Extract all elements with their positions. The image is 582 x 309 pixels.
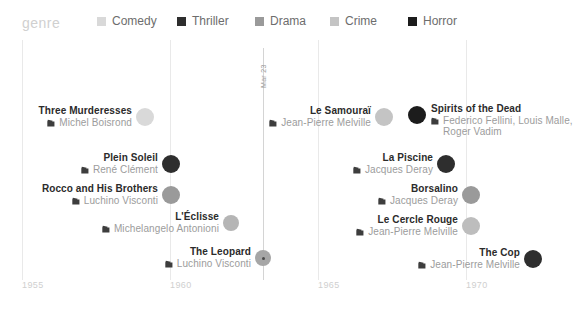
film-director: Michelangelo Antonioni <box>102 223 219 236</box>
legend-swatch-icon <box>330 17 339 26</box>
legend-label: Comedy <box>112 14 157 28</box>
director-name-line-1: Jean-Pierre Melville <box>281 117 371 128</box>
film-title: Plein Soleil <box>81 152 158 164</box>
film-title: Three Murderesses <box>39 105 132 117</box>
legend-item-thriller[interactable]: Thriller <box>177 14 229 28</box>
film-director: Jacques Deray <box>378 195 458 208</box>
film-director: René Clément <box>81 164 158 177</box>
film-clapper-icon <box>72 196 80 208</box>
director-name-line-2: Roger Vadim <box>443 126 573 138</box>
film-director: Luchino Visconti <box>42 195 158 208</box>
legend-label: Crime <box>345 14 377 28</box>
film-clapper-icon <box>269 118 277 130</box>
point-label: L'ÉclisseMichelangelo Antonioni <box>102 211 219 235</box>
film-director: Jacques Deray <box>353 164 433 177</box>
timeline-chart: genre ComedyThrillerDramaCrimeHorror Mar… <box>0 0 582 309</box>
point-label: La PiscineJacques Deray <box>353 152 433 176</box>
data-point[interactable] <box>375 108 393 126</box>
data-point[interactable] <box>223 215 239 231</box>
gridline-1965 <box>318 40 319 280</box>
point-label: Le Cercle RougeJean-Pierre Melville <box>356 214 458 238</box>
film-title: The Leopard <box>165 246 251 258</box>
director-name-line-1: René Clément <box>93 164 158 175</box>
director-name-line-1: Jean-Pierre Melville <box>368 226 458 237</box>
film-director: Jean-Pierre Melville <box>418 259 520 272</box>
film-clapper-icon <box>102 224 110 236</box>
data-point[interactable] <box>408 106 426 124</box>
tracker-date-label: Mar 23 <box>260 64 267 88</box>
legend-swatch-icon <box>97 17 106 26</box>
data-point[interactable] <box>136 108 154 126</box>
film-clapper-icon <box>165 259 173 271</box>
legend-swatch-icon <box>177 17 186 26</box>
film-title: Spirits of the Dead <box>431 103 573 115</box>
film-clapper-icon <box>353 165 361 177</box>
point-label: Three MurderessesMichel Boisrond <box>39 105 132 129</box>
director-name-line-1: Luchino Visconti <box>84 195 158 206</box>
legend-item-horror[interactable]: Horror <box>408 14 457 28</box>
director-name-line-1: Jean-Pierre Melville <box>430 259 520 270</box>
director-name-line-1: Luchino Visconti <box>177 258 251 269</box>
legend-swatch-icon <box>408 17 417 26</box>
point-label: Plein SoleilRené Clément <box>81 152 158 176</box>
data-point[interactable] <box>524 250 542 268</box>
film-title: L'Éclisse <box>102 211 219 223</box>
axis-tick-1970: 1970 <box>466 280 488 290</box>
data-point[interactable] <box>462 186 480 204</box>
film-director: Jean-Pierre Melville <box>356 226 458 239</box>
film-title: Le Cercle Rouge <box>356 214 458 226</box>
film-title: Le Samouraï <box>269 105 371 117</box>
legend-item-comedy[interactable]: Comedy <box>97 14 157 28</box>
director-name-line-1: Jacques Deray <box>365 164 433 175</box>
data-point[interactable] <box>162 155 180 173</box>
legend-label: Drama <box>270 14 306 28</box>
data-point[interactable] <box>437 155 455 173</box>
axis-tick-1955: 1955 <box>22 280 44 290</box>
director-name-line-1: Michelangelo Antonioni <box>114 223 219 234</box>
point-label: The CopJean-Pierre Melville <box>418 247 520 271</box>
axis-tick-1965: 1965 <box>318 280 340 290</box>
film-clapper-icon <box>81 165 89 177</box>
film-title: Borsalino <box>378 183 458 195</box>
film-director: Michel Boisrond <box>39 117 132 130</box>
legend-item-drama[interactable]: Drama <box>255 14 306 28</box>
film-title: La Piscine <box>353 152 433 164</box>
director-name-line-1: Michel Boisrond <box>59 117 132 128</box>
legend-label: Horror <box>423 14 457 28</box>
film-director: Federico Fellini, Louis Malle,Roger Vadi… <box>431 115 573 138</box>
point-label: Le SamouraïJean-Pierre Melville <box>269 105 371 129</box>
point-label: BorsalinoJacques Deray <box>378 183 458 207</box>
legend-item-crime[interactable]: Crime <box>330 14 377 28</box>
legend-title: genre <box>22 15 60 31</box>
selected-point-core <box>262 257 265 260</box>
data-point[interactable] <box>462 217 480 235</box>
point-label: Rocco and His BrothersLuchino Visconti <box>42 183 158 207</box>
director-name-line-1: Jacques Deray <box>390 195 458 206</box>
data-point[interactable] <box>162 186 180 204</box>
director-name-line-1: Federico Fellini, Louis Malle, <box>443 115 573 126</box>
film-clapper-icon <box>47 118 55 130</box>
film-title: The Cop <box>418 247 520 259</box>
film-clapper-icon <box>378 196 386 208</box>
film-director: Jean-Pierre Melville <box>269 117 371 130</box>
legend-swatch-icon <box>255 17 264 26</box>
film-clapper-icon <box>431 116 439 128</box>
gridline-1955 <box>22 40 23 280</box>
point-label: The LeopardLuchino Visconti <box>165 246 251 270</box>
film-director: Luchino Visconti <box>165 258 251 271</box>
legend-label: Thriller <box>192 14 229 28</box>
axis-tick-1960: 1960 <box>170 280 192 290</box>
x-axis: 1955196019651970 <box>0 280 582 300</box>
film-title: Rocco and His Brothers <box>42 183 158 195</box>
gridline-1970 <box>466 40 467 280</box>
point-label: Spirits of the DeadFederico Fellini, Lou… <box>431 103 573 138</box>
film-clapper-icon <box>356 227 364 239</box>
plot-area: Mar 23 Three MurderessesMichel BoisrondP… <box>0 40 582 280</box>
data-point[interactable] <box>255 250 271 266</box>
legend: genre ComedyThrillerDramaCrimeHorror <box>0 14 582 36</box>
film-clapper-icon <box>418 260 426 272</box>
